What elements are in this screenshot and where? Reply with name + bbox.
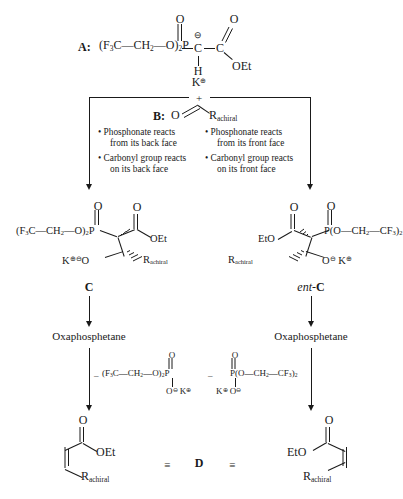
phosphoryl-oxygen: O [327, 200, 336, 212]
bullet-item: • Carbonyl group reacts [205, 153, 293, 164]
product-right-r-group: Rachiral [303, 470, 331, 483]
intermediate-c-label: C [85, 280, 94, 295]
ent-prefix: ent [297, 280, 312, 294]
ester-carbonyl-oxygen: O [290, 201, 299, 213]
bond-c3-alkoxide [105, 251, 123, 258]
product-right-carbonyl-double-bond [323, 426, 335, 444]
carbanion-negative-charge: ⊖ [194, 30, 202, 40]
r-symbol: R [209, 108, 217, 122]
r-subscript: achiral [217, 114, 237, 123]
byproduct-left-formula: (F3C—CH2—O)2P [102, 368, 169, 378]
bullet-item-cont: on its back face [98, 164, 186, 175]
bond-c-oet [137, 229, 151, 238]
bullet-item: • Phosphonate reacts [205, 127, 293, 138]
product-d-label: D [195, 456, 204, 471]
oxaphosphetane-label-left: Oxaphosphetane [52, 330, 125, 342]
ent-c-eto: EtO [258, 233, 275, 244]
o-symbol: O [322, 255, 330, 266]
phosphoryl-oxygen: O [94, 200, 103, 212]
byproduct-right-structure: – O P(O—CH2—CF3)2 K⊕ O⊖ [208, 356, 318, 404]
k-charge: ⊕ [223, 387, 228, 393]
formula-text: P(O—CH2—CF3)2 [324, 225, 403, 236]
arrowhead-oxa-to-product-right [308, 405, 314, 411]
byproduct-right-phosphoryl-oxygen: O [232, 350, 239, 360]
bond-eto-c [278, 231, 292, 240]
ester-carbonyl-oxygen: O [230, 13, 239, 25]
bond-p-c2 [100, 230, 117, 237]
byproduct-left-oxyanion-potassium: O⊖ K⊕ [166, 386, 191, 396]
hashed-bond-c2-ester [119, 226, 137, 238]
formula-text: (F3C—CH2—O)2P [16, 225, 95, 236]
bond-c-oet [83, 443, 97, 452]
intermediate-c-oet: OEt [150, 233, 167, 244]
k-charge: ⊕ [186, 387, 191, 393]
o-charge: ⊖ [173, 387, 178, 393]
product-left-alkene-double-bond [61, 444, 75, 472]
ent-c-r-group: Rachiral [228, 254, 253, 265]
k-charge: ⊕ [346, 255, 352, 262]
potassium-counterion-a: K⊕ [192, 76, 207, 88]
r-subscript: achiral [89, 475, 109, 484]
reagent-b-structure: B: O Rachiral [0, 104, 400, 126]
bullet-item: • Phosphonate reacts [98, 127, 186, 138]
ent-c-phosphonate-formula: P(O—CH2—CF3)2 [324, 225, 403, 236]
arrowhead-entc-to-oxaphosphetane [308, 321, 314, 327]
formula-text: P(O—CH2—CF3)2 [230, 368, 297, 378]
alkoxide-potassium-right: O⊖ K⊕ [322, 255, 352, 266]
bullet-item-cont: from its back face [98, 138, 186, 149]
product-right-structure: O EtO Rachiral [277, 414, 397, 484]
reagent-b-label: B: [153, 109, 165, 124]
k-symbol: K [62, 255, 70, 266]
product-left-r-group: Rachiral [81, 470, 109, 483]
intermediate-ent-c-label: ent-C [297, 280, 324, 295]
product-left-carbonyl-double-bond [77, 426, 89, 444]
k-charge: ⊕ [200, 76, 206, 85]
r-subscript: achiral [150, 258, 168, 265]
byproduct-left-structure: – (F3C—CH2—O)2P O O⊖ K⊕ [92, 356, 202, 404]
bracket-top-right [210, 97, 310, 98]
oxaphosphetane-label-right: Oxaphosphetane [274, 330, 347, 342]
product-left-structure: O OEt Rachiral [55, 414, 175, 484]
formula-text: (F3C—CH2—O)2P [102, 368, 169, 378]
byproduct-right-oxyanion-potassium: K⊕ O⊖ [216, 386, 241, 396]
bullet-item-cont: on its front face [205, 164, 293, 175]
bullet-item-cont: from its front face [205, 138, 293, 149]
intermediate-c-phosphonate-formula: (F3C—CH2—O)2P [16, 225, 95, 236]
carbanion-carbon: C [194, 42, 202, 54]
left-branch-bullets: • Phosphonate reacts from its back face … [98, 127, 186, 176]
arrowhead-left-branch [86, 184, 92, 190]
arrowhead-right-branch [307, 184, 313, 190]
r-symbol: R [81, 469, 89, 483]
p-double-bond-o [174, 24, 188, 42]
ester-carbonyl-oxygen: O [133, 201, 142, 213]
intermediate-c-r-group: Rachiral [143, 254, 168, 265]
ester-carbonyl-double-bond [219, 26, 237, 43]
r-symbol: R [228, 254, 235, 265]
bond-eto-c [313, 442, 327, 451]
intermediate-ent-c-structure: EtO O O P(O—CH2—CF3)2 O⊖ K⊕ Rachiral [200, 200, 400, 280]
byproduct-left-minus: – [94, 370, 99, 380]
o-charge: ⊖ [236, 387, 241, 393]
o-symbol: O [82, 255, 90, 266]
equivalence-left: ≡ [164, 459, 170, 471]
bond-p-c [182, 48, 193, 49]
arrowhead-c-to-oxaphosphetane [86, 321, 92, 327]
reagent-a-label: A: [78, 40, 91, 55]
arrowhead-oxa-to-product-left [86, 405, 92, 411]
bullet-item: • Carbonyl group reacts [98, 153, 186, 164]
r-subscript: achiral [311, 475, 331, 484]
product-right-eto: EtO [287, 446, 306, 458]
k-symbol: K [192, 75, 201, 89]
product-left-oet: OEt [96, 446, 115, 458]
arrow-oxa-to-product-left-shaft [89, 348, 90, 406]
arrow-c-to-oxaphosphetane-shaft [89, 296, 90, 322]
label-c: C [316, 280, 325, 294]
bond-c-c-ester [204, 48, 215, 49]
product-right-alkene-double-bond [339, 444, 353, 472]
reagent-b-r-group: Rachiral [209, 109, 237, 122]
k-symbol: K [338, 255, 346, 266]
right-branch-bullets: • Phosphonate reacts from its front face… [205, 127, 293, 176]
alkoxide-potassium-left: K⊕⊖O [62, 255, 89, 266]
r-symbol: R [303, 469, 311, 483]
r-subscript: achiral [235, 258, 253, 265]
